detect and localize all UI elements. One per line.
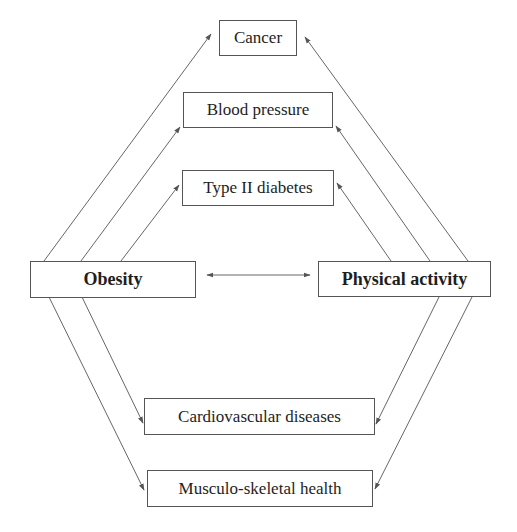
node-physical-activity: Physical activity bbox=[318, 261, 491, 297]
arrow-obesity-cancer bbox=[44, 34, 211, 261]
arrow-pa-type2-diabetes bbox=[337, 183, 391, 261]
arrow-obesity-cardiovascular bbox=[82, 297, 143, 423]
arrow-obesity-blood-pressure bbox=[81, 127, 180, 261]
node-cancer: Cancer bbox=[219, 20, 297, 56]
arrow-obesity-type2-diabetes bbox=[121, 185, 179, 261]
arrow-pa-cancer bbox=[305, 37, 468, 261]
arrow-pa-cardiovascular bbox=[376, 297, 439, 424]
node-obesity: Obesity bbox=[30, 261, 196, 298]
node-type2-diabetes: Type II diabetes bbox=[182, 170, 334, 206]
node-musculoskeletal: Musculo-skeletal health bbox=[147, 470, 373, 507]
node-blood-pressure: Blood pressure bbox=[183, 92, 333, 128]
arrow-pa-blood-pressure bbox=[336, 126, 430, 261]
arrow-pa-musculoskeletal bbox=[375, 297, 472, 489]
node-cardiovascular: Cardiovascular diseases bbox=[144, 398, 375, 435]
diagram-canvas: Cancer Blood pressure Type II diabetes O… bbox=[0, 0, 517, 532]
